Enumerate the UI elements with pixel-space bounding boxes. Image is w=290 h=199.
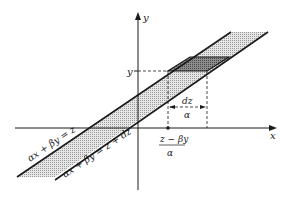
diagram-canvas: y x y dz α z − βy α αx + βy = z αx + βy …: [0, 0, 290, 199]
shaded-band: [17, 32, 268, 177]
x-point-denominator: α: [167, 148, 173, 158]
y-axis-label: y: [142, 12, 149, 23]
line-alpha-x-beta-y-equals-z: [17, 32, 231, 177]
x-axis-label: x: [270, 130, 276, 141]
x-axis: [15, 125, 277, 131]
width-denominator: α: [184, 110, 190, 120]
x-point-marker: [166, 126, 170, 130]
x-point-numerator: z − βy: [159, 134, 189, 144]
width-numerator: dz: [182, 96, 193, 106]
y-level-label: y: [126, 66, 133, 77]
y-axis-arrow-icon: [135, 12, 141, 20]
